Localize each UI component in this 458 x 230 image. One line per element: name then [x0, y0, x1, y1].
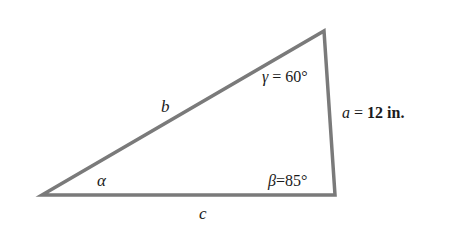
side-a-equals: =	[350, 104, 367, 121]
beta-value: 85°	[285, 172, 307, 189]
beta-equals: =	[276, 172, 285, 189]
side-a-label: a = 12 in.	[342, 104, 404, 121]
side-b-label: b	[161, 97, 170, 116]
side-a-value: 12 in.	[367, 104, 404, 121]
triangle-diagram: b γ = 60° a = 12 in. α β=85° c	[0, 0, 458, 230]
angle-beta-label: β=85°	[267, 172, 307, 190]
angle-gamma-label: γ = 60°	[262, 68, 308, 86]
gamma-value: 60°	[285, 68, 307, 85]
angle-alpha-label: α	[97, 171, 107, 190]
gamma-equals: =	[268, 68, 285, 85]
side-a-symbol: a	[342, 104, 350, 121]
beta-symbol: β	[267, 172, 276, 190]
side-c-label: c	[199, 204, 207, 223]
